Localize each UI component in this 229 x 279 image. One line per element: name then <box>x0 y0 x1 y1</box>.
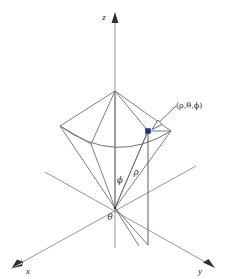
cone-group <box>60 91 171 208</box>
origin-dot <box>114 207 117 210</box>
x-axis-arrowhead-fill <box>12 260 24 269</box>
y-axis-label: y <box>197 266 202 276</box>
cone-edge-inner-left <box>91 144 115 208</box>
callout-arrow-head <box>152 120 162 130</box>
rho-label: ρ <box>133 167 139 177</box>
y-axis-line <box>45 172 207 263</box>
y-axis-arrowhead <box>203 259 215 268</box>
spherical-coordinates-diagram: z x y θ ϕ ρ (ρ,θ,ϕ) <box>0 0 229 279</box>
axes-group <box>11 12 215 269</box>
z-axis-arrowhead <box>112 12 119 23</box>
phi-label: ϕ <box>117 175 123 185</box>
point-coordinates-label: (ρ,θ,ϕ) <box>176 101 202 110</box>
x-axis-label: x <box>25 266 30 276</box>
z-axis-label: z <box>101 12 106 22</box>
theta-projection-line <box>115 208 148 245</box>
cone-rim-arc-front <box>60 126 171 147</box>
theta-helper-line <box>115 208 139 246</box>
measure-lines-group <box>115 91 148 246</box>
point-marker <box>146 129 151 134</box>
theta-label: θ <box>107 212 112 222</box>
diagram-canvas: z x y θ ϕ ρ (ρ,θ,ϕ) <box>0 0 229 279</box>
